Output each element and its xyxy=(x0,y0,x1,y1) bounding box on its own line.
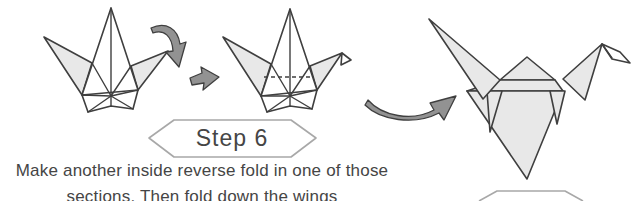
head-beak-shape xyxy=(341,53,351,65)
step-badge-label: Step 6 xyxy=(146,118,318,159)
center-body-shape xyxy=(82,8,138,95)
instruction-text-line1: Make another inside reverse fold in one … xyxy=(0,161,404,181)
origami-figure-after-reverse-fold xyxy=(218,4,358,120)
origami-instruction-page: Step 6 Make another inside reverse fold … xyxy=(0,0,637,201)
head-peak-shape xyxy=(500,57,555,80)
left-wing-shape xyxy=(429,19,500,99)
curved-fold-arrow-icon xyxy=(142,22,194,74)
instruction-text-line2: sections. Then fold down the wings xyxy=(0,187,404,201)
next-step-badge-partial xyxy=(477,190,585,201)
head-beak-shape xyxy=(602,44,630,63)
right-wing-shape xyxy=(563,44,602,100)
center-body-shape xyxy=(261,9,317,96)
tail-triangle-shape xyxy=(467,91,563,179)
step-badge: Step 6 xyxy=(146,118,318,159)
origami-figure-finished-crane xyxy=(415,10,637,182)
next-step-arrow-icon xyxy=(189,66,221,92)
